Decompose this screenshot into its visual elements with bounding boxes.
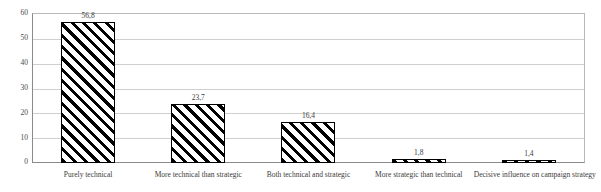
bar[interactable]	[281, 122, 335, 163]
bar-slot: 1,8	[364, 14, 474, 163]
y-axis-tick-label: 30	[4, 84, 28, 92]
y-axis-tick-label: 60	[4, 9, 28, 17]
bar-value-label: 16,4	[302, 112, 315, 120]
y-axis-tick-label: 0	[4, 158, 28, 166]
bar[interactable]	[61, 22, 115, 163]
x-axis-category-label: Purely technical	[33, 170, 143, 179]
y-axis-tick-label: 50	[4, 34, 28, 42]
bar-slot: 56,8	[33, 14, 143, 163]
bar-slot: 1,4	[474, 14, 584, 163]
x-axis-category-label: More technical than strategic	[143, 170, 253, 179]
bar-value-label: 1,4	[524, 150, 533, 158]
y-axis-tick-label: 10	[4, 134, 28, 142]
bar-slot: 16,4	[253, 14, 363, 163]
bar-value-label: 56,8	[82, 12, 95, 20]
x-axis-category-label: Decisive influence on campaign strategy	[474, 170, 584, 179]
x-axis-category-label: More strategic than technical	[364, 170, 474, 179]
x-axis-category-label: Both technical and strategic	[253, 170, 363, 179]
bar-value-label: 23,7	[192, 94, 205, 102]
bar-slot: 23,7	[143, 14, 253, 163]
y-axis-tick-label: 20	[4, 109, 28, 117]
y-axis-tick-label: 40	[4, 59, 28, 67]
bar[interactable]	[171, 104, 225, 163]
x-axis: Purely technical More technical than str…	[33, 167, 584, 189]
bar-chart: 60 50 40 30 20 10 0 56,8 23,7 16,4 1,8 1…	[0, 0, 601, 192]
bar-value-label: 1,8	[414, 149, 423, 157]
bar[interactable]	[502, 160, 556, 164]
bars-layer: 56,8 23,7 16,4 1,8 1,4	[33, 14, 584, 163]
bar[interactable]	[392, 159, 446, 164]
